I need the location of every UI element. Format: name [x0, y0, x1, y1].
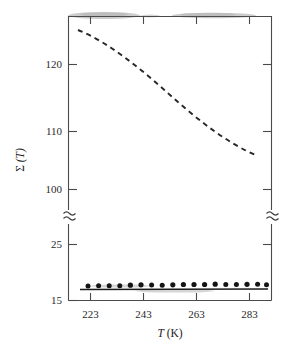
figure-container: 120 110 100 25 15 223 243 263 283 T (K) …	[0, 0, 296, 346]
y-axis-title: Σ (T)	[14, 148, 27, 172]
ytick-label-110: 110	[46, 125, 63, 137]
xtick-label-223: 223	[82, 308, 99, 320]
series-baseline-solid	[80, 289, 268, 290]
y-axis-title-argument: (T)	[14, 148, 27, 165]
x-axis-ticks-bottom	[91, 293, 250, 301]
scan-artifacts	[68, 12, 256, 293]
axis-break-right	[266, 210, 279, 224]
xtick-label-243: 243	[135, 308, 152, 320]
ytick-label-100: 100	[46, 183, 63, 195]
x-axis-title: T (K)	[157, 327, 182, 340]
x-axis-title-units: (K)	[164, 327, 183, 340]
y-axis-ticks-left	[69, 65, 78, 301]
axis-break-left	[63, 210, 76, 224]
xtick-label-283: 283	[241, 308, 258, 320]
ytick-label-25: 25	[51, 238, 63, 250]
chart-canvas: 120 110 100 25 15 223 243 263 283 T (K) …	[0, 0, 296, 346]
ytick-label-120: 120	[46, 58, 63, 70]
ytick-label-15: 15	[51, 294, 63, 306]
xtick-label-263: 263	[188, 308, 205, 320]
plot-frame	[69, 16, 272, 301]
series-model-dashed	[78, 30, 258, 156]
